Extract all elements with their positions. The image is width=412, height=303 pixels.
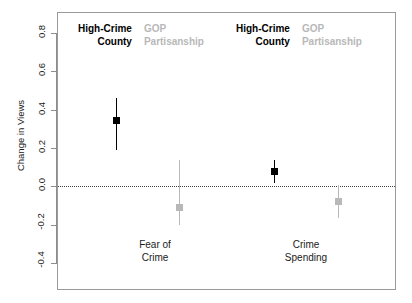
series-label-line1: High-Crime (78, 22, 132, 35)
y-tick-mark-0.4 (51, 110, 56, 111)
y-tick-mark--0.2 (51, 225, 56, 226)
zero-reference-line (58, 186, 395, 187)
y-tick-text: -0.2 (34, 213, 45, 229)
series-label-line2: County (236, 35, 290, 48)
series-label-line1: High-Crime (236, 22, 290, 35)
series-label-line2: Partisanship (302, 35, 362, 48)
category-label-line1: Fear of (105, 238, 205, 251)
estimate-point-marker (176, 204, 183, 211)
category-label-fear-of-crime: Fear of Crime (105, 238, 205, 264)
y-tick-text: 0.4 (36, 102, 47, 115)
y-tick-text: 0.2 (36, 140, 47, 153)
series-label-line1: GOP (302, 22, 362, 35)
series-label-gop-partisanship: GOP Partisanship (290, 22, 362, 48)
confidence-interval-whisker (116, 98, 117, 150)
coefficient-plot-figure: 0.8 0.6 0.4 0.2 0.0 -0.2 -0.4 Change in … (0, 0, 412, 303)
y-tick-mark-0.2 (51, 148, 56, 149)
series-label-line1: GOP (144, 22, 204, 35)
y-axis-title: Change in Views (15, 76, 26, 196)
y-tick-label-0.8: 0.8 (0, 26, 48, 37)
series-label-line2: Partisanship (144, 35, 204, 48)
y-tick-mark-0.0 (51, 186, 56, 187)
estimate-point-marker (271, 168, 278, 175)
y-tick-mark-0.6 (51, 71, 56, 72)
y-tick-mark--0.4 (51, 263, 56, 264)
estimate-point-marker (335, 198, 342, 205)
estimate-point-marker (113, 117, 120, 124)
group-header-fear-of-crime: High-Crime County GOP Partisanship (78, 22, 204, 48)
series-label-line2: County (78, 35, 132, 48)
y-tick-text: 0.6 (36, 63, 47, 76)
confidence-interval-whisker (179, 160, 180, 225)
series-label-high-crime-county: High-Crime County (236, 22, 290, 48)
y-tick-label--0.2: -0.2 (0, 216, 48, 227)
y-tick-mark-0.8 (51, 33, 56, 34)
y-axis-line (56, 33, 57, 264)
series-label-gop-partisanship: GOP Partisanship (132, 22, 204, 48)
series-label-high-crime-county: High-Crime County (78, 22, 132, 48)
category-label-crime-spending: Crime Spending (256, 238, 356, 264)
y-tick-text: 0.8 (36, 25, 47, 38)
group-header-crime-spending: High-Crime County GOP Partisanship (236, 22, 362, 48)
y-tick-label-0.6: 0.6 (0, 64, 48, 75)
y-tick-label--0.4: -0.4 (0, 254, 48, 265)
category-label-line2: Crime (105, 251, 205, 264)
category-label-line2: Spending (256, 251, 356, 264)
category-label-line1: Crime (256, 238, 356, 251)
y-tick-text: -0.4 (34, 251, 45, 267)
y-tick-text: 0.0 (36, 178, 47, 191)
